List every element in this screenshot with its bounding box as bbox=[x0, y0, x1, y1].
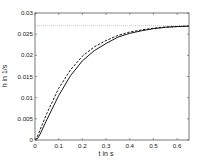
y-tick-label: 0.025 bbox=[18, 30, 34, 37]
y-axis-ticks: 00.0050.010.0150.020.0250.03 bbox=[18, 9, 189, 143]
x-tick-label: 0.1 bbox=[54, 142, 63, 149]
x-tick-label: 0.6 bbox=[173, 142, 182, 149]
y-tick-label: 0.005 bbox=[18, 115, 34, 122]
axes-box bbox=[35, 13, 189, 140]
y-axis-label: h in 1/s bbox=[1, 64, 8, 87]
y-tick-label: 0.01 bbox=[21, 94, 34, 101]
x-axis-ticks: 00.10.20.30.40.50.6 bbox=[33, 13, 182, 149]
x-tick-label: 0.3 bbox=[102, 142, 111, 149]
x-tick-label: 0.4 bbox=[125, 142, 134, 149]
x-tick-label: 0 bbox=[33, 142, 37, 149]
y-tick-label: 0.03 bbox=[21, 9, 34, 16]
series-dashed bbox=[35, 26, 189, 140]
y-tick-label: 0 bbox=[30, 136, 34, 143]
x-axis-label: t in s bbox=[99, 150, 114, 157]
series-layer bbox=[35, 26, 189, 140]
series-solid bbox=[35, 26, 189, 140]
y-tick-label: 0.015 bbox=[18, 73, 34, 80]
x-tick-label: 0.2 bbox=[78, 142, 87, 149]
y-tick-label: 0.02 bbox=[21, 51, 34, 58]
line-chart: 00.10.20.30.40.50.6 00.0050.010.0150.020… bbox=[0, 0, 199, 162]
x-tick-label: 0.5 bbox=[149, 142, 158, 149]
